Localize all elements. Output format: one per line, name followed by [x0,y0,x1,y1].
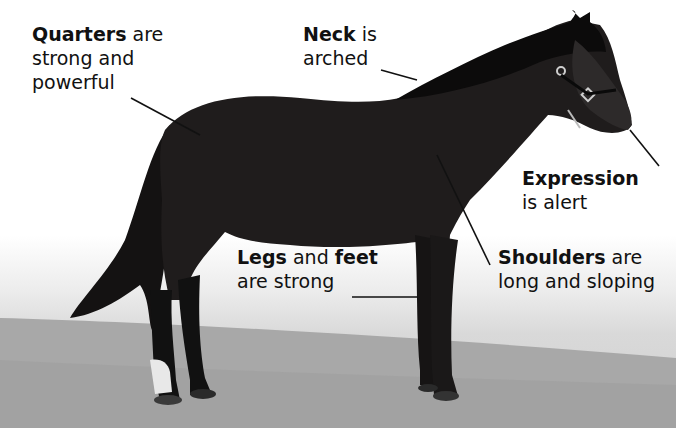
shoulders-term: Shoulders [498,246,605,268]
neck-term: Neck [303,23,356,45]
neck-leader-line [381,70,417,80]
hoof [418,384,438,392]
expression-leader-line [630,130,659,166]
legs-term: Legs [237,246,287,268]
label-legs-and-feet: Legs and feet are strong [237,245,378,293]
horse-anatomy-figure: g , [0,0,686,432]
label-quarters: Quarters are strong and powerful [32,22,163,94]
expression-term: Expression [522,167,639,189]
feet-term: feet [335,246,378,268]
label-expression: Expression is alert [522,166,639,214]
label-neck: Neck is arched [303,22,377,70]
label-shoulders: Shoulders are long and sloping [498,245,655,293]
hoof [433,391,459,401]
hoof [154,395,182,405]
hoof [190,389,216,399]
quarters-term: Quarters [32,23,127,45]
